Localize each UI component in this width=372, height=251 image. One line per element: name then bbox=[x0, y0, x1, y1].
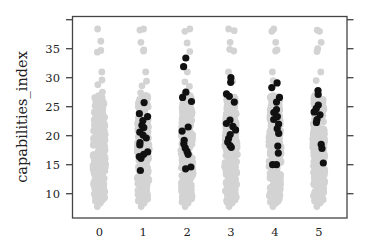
data-point bbox=[226, 46, 233, 53]
data-point bbox=[312, 156, 319, 163]
data-point bbox=[100, 166, 107, 173]
y-tick-label: 15 bbox=[45, 158, 60, 172]
y-tick-label: 25 bbox=[45, 100, 60, 114]
y-tick-label: 30 bbox=[45, 71, 60, 85]
x-tick-label: 3 bbox=[227, 225, 234, 239]
data-point bbox=[144, 180, 151, 187]
data-point bbox=[269, 161, 276, 168]
data-point bbox=[227, 79, 234, 86]
data-point bbox=[315, 91, 322, 98]
data-point bbox=[138, 39, 145, 46]
data-point bbox=[310, 149, 317, 156]
data-point bbox=[313, 167, 320, 174]
data-point bbox=[227, 39, 234, 46]
data-point bbox=[90, 142, 97, 149]
data-point bbox=[273, 200, 280, 207]
data-point bbox=[184, 40, 191, 47]
data-point bbox=[179, 103, 186, 110]
data-point bbox=[319, 131, 326, 138]
data-point bbox=[231, 99, 238, 106]
data-point bbox=[99, 113, 106, 120]
data-point bbox=[94, 26, 101, 33]
data-point bbox=[230, 187, 237, 194]
data-point bbox=[226, 171, 233, 178]
y-axis-ticks-left bbox=[66, 20, 73, 194]
x-tick-label: 4 bbox=[271, 225, 278, 239]
data-point bbox=[139, 82, 146, 89]
data-point bbox=[268, 84, 275, 91]
data-point bbox=[137, 155, 144, 162]
data-point bbox=[179, 185, 186, 192]
data-point bbox=[137, 27, 144, 34]
data-point bbox=[182, 28, 189, 35]
data-point bbox=[101, 124, 108, 131]
y-tick-label: 20 bbox=[45, 129, 60, 143]
data-point bbox=[185, 151, 192, 158]
data-point bbox=[223, 180, 230, 187]
data-point bbox=[179, 128, 186, 135]
background-points bbox=[90, 26, 328, 210]
data-point bbox=[141, 99, 148, 106]
data-point bbox=[226, 93, 233, 100]
data-point bbox=[137, 167, 144, 174]
data-point bbox=[99, 191, 106, 198]
data-point bbox=[267, 127, 274, 134]
data-point bbox=[98, 69, 105, 76]
data-point bbox=[311, 181, 318, 188]
data-point bbox=[94, 49, 101, 56]
data-point bbox=[321, 168, 328, 175]
data-point bbox=[95, 177, 102, 184]
data-point bbox=[92, 192, 99, 199]
data-point bbox=[274, 143, 281, 150]
data-point bbox=[94, 81, 101, 88]
data-point bbox=[228, 193, 235, 200]
x-tick-label: 2 bbox=[183, 225, 190, 239]
data-point bbox=[269, 69, 276, 76]
data-point bbox=[178, 172, 185, 179]
x-axis-tick-labels: 0 1 2 3 4 5 bbox=[96, 225, 323, 239]
data-point bbox=[136, 110, 143, 117]
data-point bbox=[91, 109, 98, 116]
data-point bbox=[275, 130, 282, 137]
data-point bbox=[268, 28, 275, 35]
data-point bbox=[267, 137, 274, 144]
data-point bbox=[320, 159, 327, 166]
data-point bbox=[267, 191, 274, 198]
data-point bbox=[228, 144, 235, 151]
data-point bbox=[136, 141, 143, 148]
strip-plot: 10 15 20 25 30 35 0 1 2 3 4 5 capabiliti… bbox=[0, 0, 372, 251]
data-point bbox=[267, 185, 274, 192]
data-point bbox=[140, 187, 147, 194]
y-axis-label: capabilities_index bbox=[14, 51, 31, 183]
data-point bbox=[188, 187, 195, 194]
data-point bbox=[316, 28, 323, 35]
data-point bbox=[229, 200, 236, 207]
plot-frame bbox=[73, 17, 348, 219]
data-point bbox=[223, 187, 230, 194]
y-tick-label: 10 bbox=[45, 187, 60, 201]
data-point bbox=[318, 39, 325, 46]
data-point bbox=[188, 157, 195, 164]
data-point bbox=[97, 38, 104, 45]
y-axis-tick-labels: 10 15 20 25 30 35 bbox=[45, 42, 60, 201]
data-point bbox=[311, 189, 318, 196]
data-point bbox=[94, 161, 101, 168]
data-point bbox=[94, 101, 101, 108]
data-point bbox=[140, 47, 147, 54]
data-point bbox=[101, 136, 108, 143]
data-point bbox=[272, 173, 279, 180]
data-point bbox=[313, 77, 320, 84]
data-point bbox=[141, 200, 148, 207]
data-point bbox=[180, 63, 187, 70]
x-tick-label: 1 bbox=[140, 225, 147, 239]
data-point bbox=[314, 48, 321, 55]
data-point bbox=[92, 120, 99, 127]
data-point bbox=[182, 54, 189, 61]
data-point bbox=[100, 184, 107, 191]
data-point bbox=[275, 150, 282, 157]
data-point bbox=[137, 89, 144, 96]
data-point bbox=[311, 138, 318, 145]
data-point bbox=[229, 107, 236, 114]
data-point bbox=[318, 145, 325, 152]
data-point bbox=[95, 151, 102, 158]
